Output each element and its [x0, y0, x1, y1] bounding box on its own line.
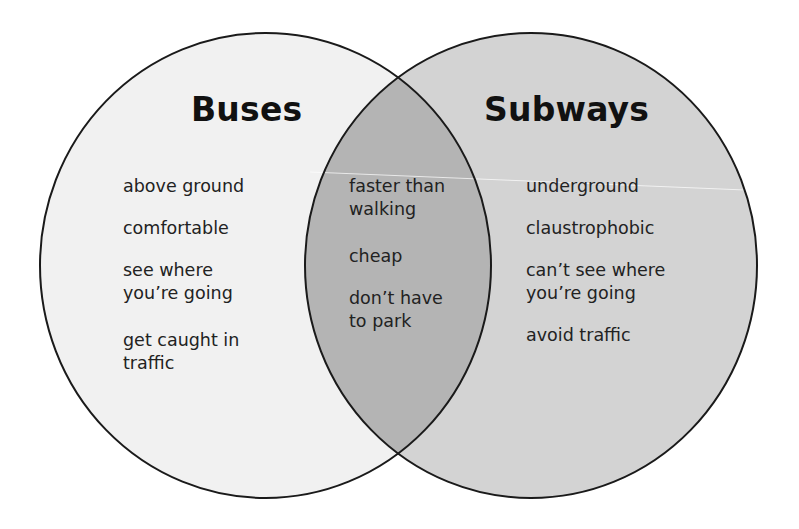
buses-title: Buses — [191, 90, 302, 129]
buses-item-2: comfortable — [123, 217, 229, 240]
buses-item-1: above ground — [123, 175, 244, 198]
subways-item-3: can’t see where you’re going — [526, 259, 665, 305]
buses-item-3: see where you’re going — [123, 259, 233, 305]
overlap-item-2: cheap — [349, 245, 402, 268]
subways-item-2: claustrophobic — [526, 217, 654, 240]
overlap-item-3: don’t have to park — [349, 287, 443, 333]
subways-item-1: underground — [526, 175, 639, 198]
subways-item-4: avoid traffic — [526, 324, 631, 347]
buses-item-4: get caught in traffic — [123, 329, 239, 375]
subways-title: Subways — [484, 90, 649, 129]
overlap-item-1: faster than walking — [349, 175, 445, 221]
